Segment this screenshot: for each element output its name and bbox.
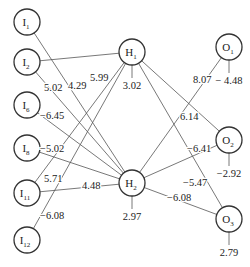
weight-label: 6.14 [180, 111, 199, 122]
edge-i2-h1 [40, 53, 119, 61]
bias-label-o3: 2.79 [220, 247, 238, 258]
weight-label: −6.08 [167, 192, 191, 203]
input-node-i2: I2 [14, 49, 40, 75]
output-node-o3: O3 [216, 206, 242, 232]
output-node-o2: O2 [216, 127, 242, 153]
weight-label: 8.07 [193, 74, 211, 85]
weight-label: 5.02 [44, 82, 62, 93]
input-node-i6: I6 [14, 92, 40, 118]
input-node-i8: I8 [14, 135, 40, 161]
bias-label-o1: − 4.48 [216, 75, 243, 86]
input-node-i1: I1 [14, 9, 40, 35]
input-node-i12: I12 [14, 227, 40, 253]
bias-label-o2: −2.92 [217, 168, 241, 179]
weight-labels-layer: 4.295.995.02−6.45−5.025.714.48−6.086.14−… [40, 72, 211, 221]
edge-i11-h2 [40, 184, 119, 192]
output-node-o1: O1 [216, 34, 242, 60]
hidden-node-h1: H1 [119, 39, 145, 65]
weight-label: 4.48 [82, 180, 100, 191]
weight-label: −5.02 [40, 143, 64, 154]
input-node-i11: I11 [14, 180, 40, 206]
weight-label: 4.29 [68, 80, 86, 91]
hidden-node-h2: H2 [119, 170, 145, 196]
neural-network-diagram: 3.022.97− 4.48−2.922.79 I1I2I6I8I11I12H1… [0, 0, 250, 267]
bias-label-h1: 3.02 [123, 80, 141, 91]
weight-label: 5.99 [90, 72, 108, 83]
weight-label: 5.71 [44, 173, 62, 184]
weight-label: −5.47 [183, 177, 207, 188]
weight-label: −6.45 [40, 110, 64, 121]
weight-label: −6.08 [40, 210, 64, 221]
weight-label: −6.41 [187, 143, 211, 154]
bias-label-h2: 2.97 [123, 211, 141, 222]
